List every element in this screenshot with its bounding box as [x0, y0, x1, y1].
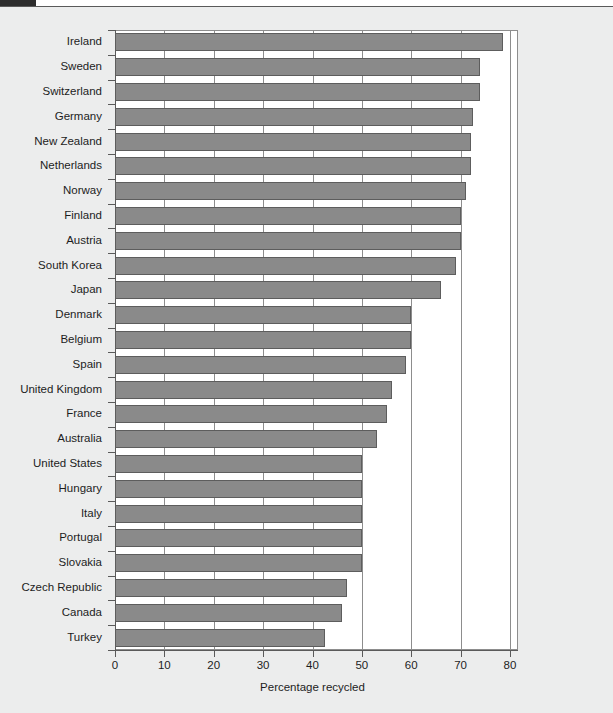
x-axis-tick — [313, 651, 314, 657]
y-axis-tick — [108, 625, 115, 626]
bar[interactable] — [115, 356, 406, 374]
bar[interactable] — [115, 232, 461, 250]
y-axis-label: Spain — [73, 358, 102, 371]
y-axis-label: Finland — [64, 209, 102, 222]
x-axis-tick-label: 70 — [446, 659, 476, 671]
y-axis-tick — [108, 278, 115, 279]
x-axis-tick — [214, 651, 215, 657]
bar[interactable] — [115, 604, 342, 622]
y-axis-tick — [108, 501, 115, 502]
x-axis-tick-label: 30 — [248, 659, 278, 671]
bar[interactable] — [115, 430, 377, 448]
y-axis-label: Netherlands — [40, 159, 102, 172]
y-axis-label: Portugal — [59, 531, 102, 544]
y-axis-tick — [108, 104, 115, 105]
bar[interactable] — [115, 554, 362, 572]
y-axis-tick — [108, 55, 115, 56]
x-axis-tick-label: 60 — [396, 659, 426, 671]
x-axis-title: Percentage recycled — [115, 681, 510, 693]
y-axis-label: New Zealand — [34, 135, 102, 148]
bar[interactable] — [115, 58, 480, 76]
header-tab-block[interactable] — [0, 0, 36, 6]
y-axis-tick — [108, 576, 115, 577]
x-axis-tick — [510, 651, 511, 657]
y-axis-tick — [108, 30, 115, 31]
y-axis-tick — [108, 253, 115, 254]
y-axis-tick — [108, 402, 115, 403]
gridline-80 — [510, 30, 511, 650]
y-axis-label: Canada — [62, 606, 102, 619]
bar[interactable] — [115, 257, 456, 275]
x-axis-ticks: 01020304050607080 — [115, 651, 510, 681]
y-axis-tick — [108, 154, 115, 155]
y-axis-label: Norway — [63, 184, 102, 197]
bar[interactable] — [115, 157, 471, 175]
y-axis-tick — [108, 352, 115, 353]
window-header-strip — [0, 0, 613, 7]
y-axis-label: Switzerland — [43, 85, 102, 98]
y-axis-tick — [108, 476, 115, 477]
x-axis-tick-label: 40 — [298, 659, 328, 671]
y-axis-tick — [108, 179, 115, 180]
bar[interactable] — [115, 480, 362, 498]
bar[interactable] — [115, 33, 503, 51]
y-axis-label: South Korea — [38, 259, 102, 272]
bar[interactable] — [115, 108, 473, 126]
bar[interactable] — [115, 455, 362, 473]
y-axis-tick — [108, 328, 115, 329]
y-axis-label: Denmark — [55, 308, 102, 321]
x-axis-tick-label: 80 — [495, 659, 525, 671]
y-axis-tick — [108, 452, 115, 453]
y-axis-tick — [108, 551, 115, 552]
y-axis-label: Turkey — [67, 631, 102, 644]
bar[interactable] — [115, 306, 411, 324]
x-axis-tick — [115, 651, 116, 657]
y-axis-tick — [108, 303, 115, 304]
x-axis-tick — [411, 651, 412, 657]
bar[interactable] — [115, 381, 392, 399]
plot-area — [115, 30, 510, 650]
bar[interactable] — [115, 505, 362, 523]
y-axis-tick — [108, 600, 115, 601]
chart-figure: IrelandSwedenSwitzerlandGermanyNew Zeala… — [0, 8, 613, 713]
bar[interactable] — [115, 579, 347, 597]
y-axis-label: France — [66, 407, 102, 420]
y-axis-tick — [108, 427, 115, 428]
y-axis-labels: IrelandSwedenSwitzerlandGermanyNew Zeala… — [0, 30, 115, 650]
y-axis-label: United States — [33, 457, 102, 470]
x-axis-tick — [461, 651, 462, 657]
x-axis-tick — [164, 651, 165, 657]
y-axis-tick — [108, 129, 115, 130]
x-axis-tick-label: 50 — [347, 659, 377, 671]
bar-series — [115, 30, 510, 650]
y-axis-tick — [108, 80, 115, 81]
y-axis-label: Australia — [57, 432, 102, 445]
y-axis-tick — [108, 228, 115, 229]
bar[interactable] — [115, 182, 466, 200]
y-axis-tick — [108, 377, 115, 378]
bar[interactable] — [115, 83, 480, 101]
bar[interactable] — [115, 529, 362, 547]
x-axis-tick-label: 20 — [199, 659, 229, 671]
bar[interactable] — [115, 629, 325, 647]
y-axis-label: United Kingdom — [20, 383, 102, 396]
y-axis-tick — [108, 204, 115, 205]
bar[interactable] — [115, 331, 411, 349]
bar[interactable] — [115, 207, 461, 225]
x-axis-tick-label: 10 — [149, 659, 179, 671]
y-axis-label: Japan — [71, 283, 102, 296]
y-axis-label: Belgium — [60, 333, 102, 346]
y-axis-label: Germany — [55, 110, 102, 123]
y-axis-label: Czech Republic — [21, 581, 102, 594]
y-axis-tick — [108, 650, 115, 651]
x-axis-tick — [362, 651, 363, 657]
y-axis-label: Slovakia — [59, 556, 102, 569]
bar[interactable] — [115, 405, 387, 423]
page-root: IrelandSwedenSwitzerlandGermanyNew Zeala… — [0, 0, 613, 713]
y-axis-label: Hungary — [59, 482, 102, 495]
x-axis-tick — [263, 651, 264, 657]
y-axis-label: Sweden — [60, 60, 102, 73]
y-axis-label: Ireland — [67, 35, 102, 48]
bar[interactable] — [115, 281, 441, 299]
bar[interactable] — [115, 133, 471, 151]
